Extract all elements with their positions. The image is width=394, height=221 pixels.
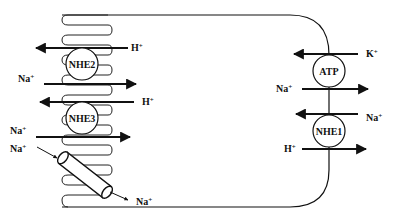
- transporter-nhe2: NHE2: [36, 48, 136, 84]
- ion-label-h-nhe1: H+: [284, 143, 296, 154]
- nhe2-label: NHE2: [69, 59, 96, 70]
- nhe1-label: NHE1: [316, 126, 343, 137]
- atp-label: ATP: [319, 66, 338, 77]
- ion-label-na-channel-in: Na+: [10, 143, 26, 154]
- ion-label-k-atpase: K+: [366, 48, 378, 59]
- ion-label-na-channel-out: Na+: [136, 196, 152, 207]
- transporter-nhe3: NHE3: [36, 102, 134, 137]
- transporter-na-k-atpase: ATP: [294, 54, 368, 89]
- nhe3-label: NHE3: [69, 113, 96, 124]
- cell-membrane: [62, 15, 329, 207]
- ion-label-h-nhe3: H+: [142, 96, 154, 107]
- ion-label-na-atpase: Na+: [276, 83, 292, 94]
- na-channel-out-arrow: [110, 192, 128, 200]
- cell-diagram: NHE2 H+ Na+ NHE3 H+ Na+ Na+ Na+ ATP K+ N…: [0, 0, 394, 221]
- ion-label-na-nhe1: Na+: [366, 112, 382, 123]
- ion-label-na-nhe2: Na+: [18, 73, 34, 84]
- na-channel-in-arrow: [37, 147, 57, 158]
- ion-label-na-nhe3: Na+: [10, 125, 26, 136]
- transporter-nhe1: NHE1: [296, 114, 366, 149]
- ion-label-h-nhe2: H+: [131, 42, 143, 53]
